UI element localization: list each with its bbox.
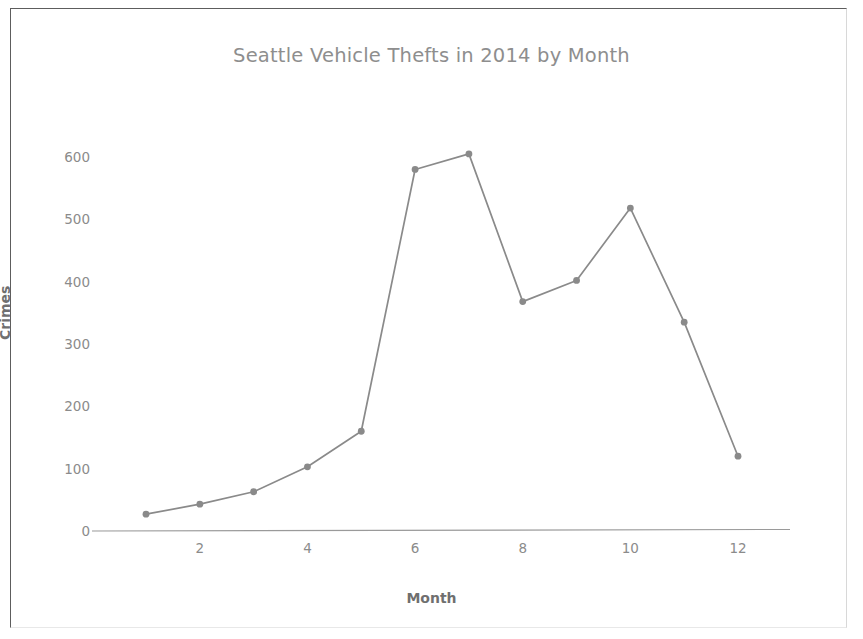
series-line (146, 154, 738, 514)
data-point-marker (196, 501, 203, 508)
data-point-marker (466, 150, 473, 157)
line-chart: Seattle Vehicle Thefts in 2014 by Month … (0, 0, 863, 639)
data-point-marker (735, 453, 742, 460)
data-point-marker (304, 463, 311, 470)
data-point-markers (143, 150, 742, 517)
plot-area (0, 0, 863, 639)
data-series-crimes (146, 154, 738, 514)
data-point-marker (681, 319, 688, 326)
data-point-marker (519, 298, 526, 305)
data-point-marker (358, 428, 365, 435)
x-axis-line (92, 530, 790, 532)
data-point-marker (573, 277, 580, 284)
chart-page: Seattle Vehicle Thefts in 2014 by Month … (0, 0, 863, 639)
axis-lines (92, 530, 790, 532)
data-point-marker (143, 511, 150, 518)
data-point-marker (412, 166, 419, 173)
data-point-marker (627, 205, 634, 212)
data-point-marker (250, 488, 257, 495)
